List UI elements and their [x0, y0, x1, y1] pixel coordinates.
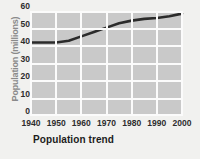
horizontal-gridline: [31, 63, 182, 65]
y-tick-label: 40: [21, 37, 30, 46]
x-tick-label: 1950: [47, 119, 66, 128]
x-tick-label: 1980: [122, 119, 141, 128]
horizontal-gridline: [31, 45, 182, 47]
y-axis-tick-labels: 0102030405060: [9, 6, 30, 116]
x-axis-tick-labels: 1940195019601970198019902000: [31, 119, 182, 131]
horizontal-gridline: [31, 98, 182, 100]
horizontal-gridline: [31, 11, 182, 13]
horizontal-gridline: [31, 28, 182, 30]
chart-title: Population trend: [33, 134, 114, 145]
horizontal-gridline: [31, 80, 182, 82]
y-tick-label: 30: [21, 54, 30, 63]
x-tick-label: 1970: [97, 119, 116, 128]
plot-area: [31, 11, 182, 116]
y-tick-label: 10: [21, 89, 30, 98]
chart-figure: Population (millions) 0102030405060 1940…: [0, 0, 200, 159]
x-tick-label: 1960: [72, 119, 91, 128]
x-tick-label: 2000: [173, 119, 192, 128]
horizontal-gridline: [31, 114, 182, 116]
x-tick-label: 1940: [22, 119, 41, 128]
y-tick-label: 60: [21, 2, 30, 11]
y-tick-label: 50: [21, 19, 30, 28]
y-tick-label: 20: [21, 72, 30, 81]
x-tick-label: 1990: [147, 119, 166, 128]
